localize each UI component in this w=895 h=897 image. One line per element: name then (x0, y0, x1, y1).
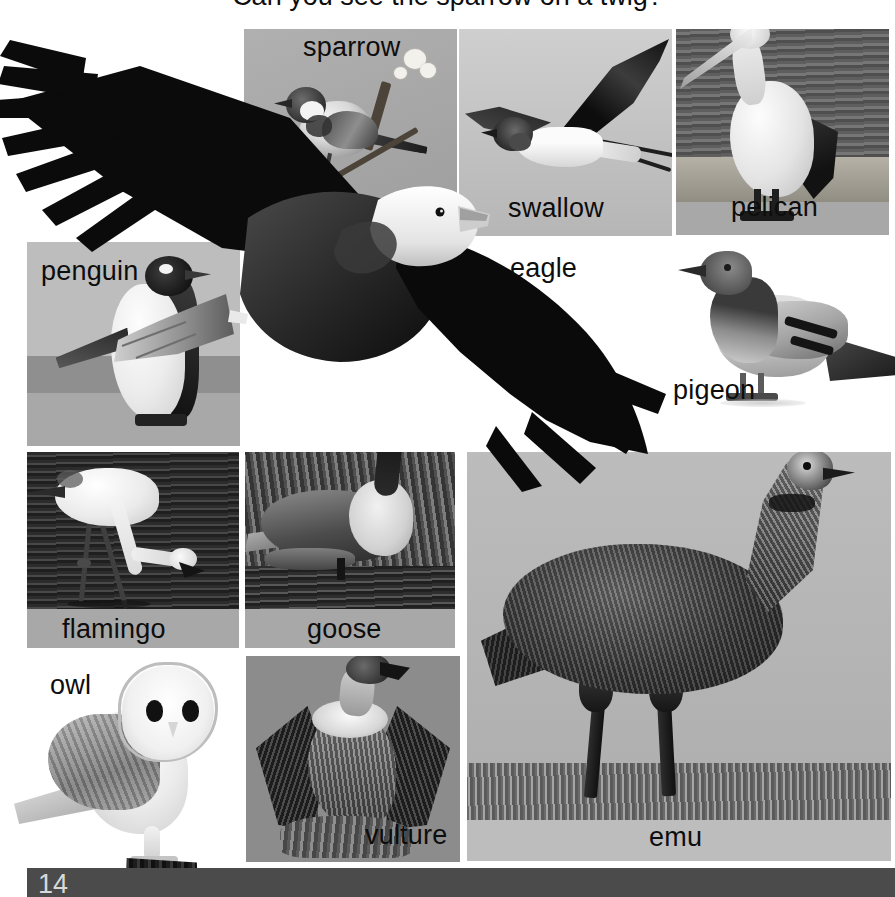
footer-bar (27, 868, 895, 897)
penguin-label: penguin (41, 256, 139, 287)
page-number: 14 (38, 869, 68, 897)
swallow-label: swallow (508, 193, 604, 224)
emu-label: emu (649, 822, 702, 853)
owl-label: owl (50, 670, 91, 701)
vulture-label: vulture (365, 820, 447, 851)
eagle-label: eagle (510, 253, 577, 284)
pigeon-label: pigeon (673, 375, 755, 406)
emu-panel (467, 452, 891, 861)
emu-photo (467, 452, 891, 861)
sparrow-label: sparrow (303, 32, 400, 63)
page-title: Can you see the sparrow on a twig? (0, 0, 895, 12)
book-page: Can you see the sparrow on a twig? (0, 0, 895, 897)
flamingo-label: flamingo (62, 614, 166, 645)
pelican-label: pelican (731, 192, 818, 223)
goose-label: goose (307, 614, 382, 645)
pigeon-photo (672, 243, 895, 443)
